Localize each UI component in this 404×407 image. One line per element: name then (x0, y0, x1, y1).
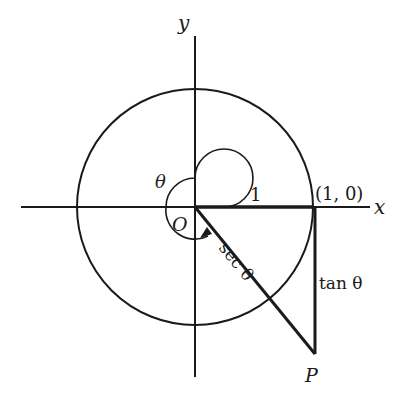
secant-segment (195, 207, 315, 354)
y-axis-label: y (177, 11, 190, 35)
point-1-0-label: (1, 0) (315, 183, 363, 204)
theta-label: θ (155, 171, 166, 192)
x-axis-label: x (374, 195, 385, 219)
point-P-label: P (304, 364, 319, 386)
tan-theta-label: tan θ (319, 273, 363, 293)
radius-label: 1 (250, 184, 261, 205)
unit-circle-diagram: y x O θ 1 (1, 0) sec θ tan θ P (0, 0, 404, 407)
origin-label: O (172, 213, 188, 235)
